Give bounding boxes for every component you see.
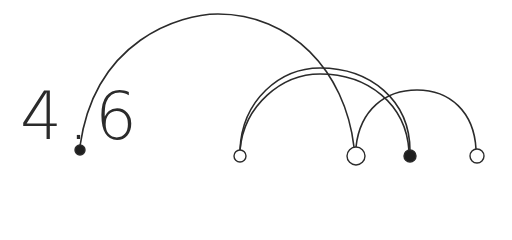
value-label: 4.6 — [20, 80, 143, 154]
node-n3 — [404, 150, 416, 162]
node-n1 — [234, 150, 246, 162]
arc-n2-n4 — [356, 90, 476, 149]
node-n2 — [347, 147, 365, 165]
arc-n1-n3 — [240, 74, 409, 151]
node-n4 — [470, 149, 484, 163]
arc-n1-n3 — [240, 68, 410, 151]
